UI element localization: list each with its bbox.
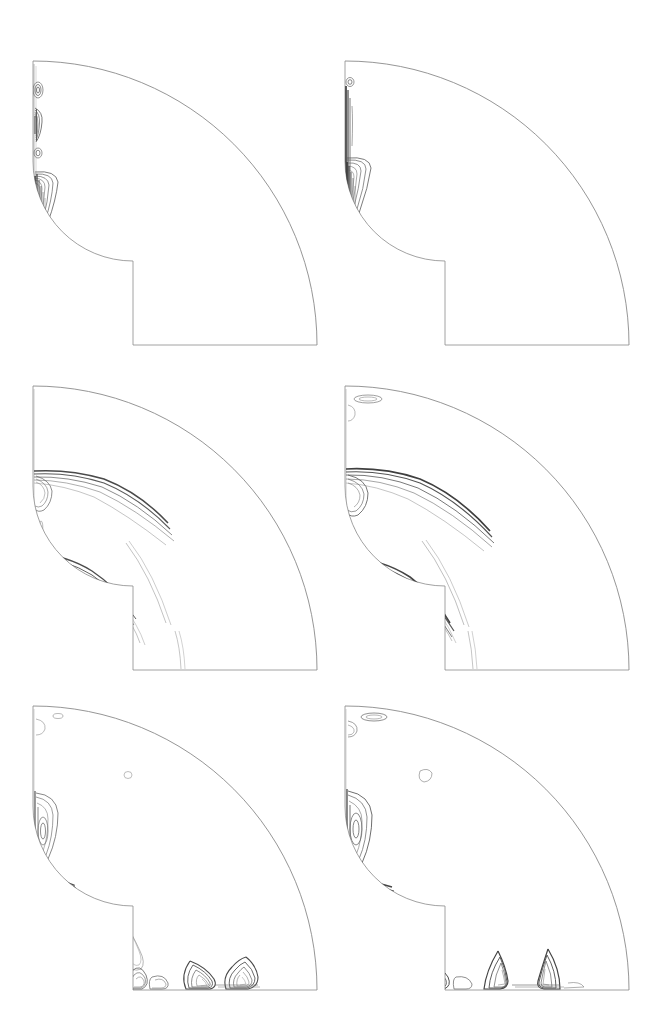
bottom-crescent-left <box>423 967 472 989</box>
isolated-blob <box>419 769 432 782</box>
panel-bottom-right-plot <box>312 695 644 1027</box>
plume-upper <box>346 469 494 551</box>
teardrop-plume <box>116 911 143 970</box>
bottom-crescent-center <box>484 951 508 989</box>
bottom-blob-left <box>128 968 169 989</box>
panel-bottom-left <box>0 695 332 1027</box>
domain-outline <box>33 706 317 990</box>
closed-loop-top <box>346 78 354 87</box>
closed-loop-top <box>348 713 387 737</box>
vertical-plume <box>347 789 372 871</box>
bottom-blob-center <box>184 961 216 989</box>
domain-outline <box>33 386 317 670</box>
contour-field <box>33 64 58 260</box>
closed-loop-top <box>354 395 382 403</box>
isolated-blob <box>124 772 132 779</box>
panel-bottom-right <box>312 695 644 1027</box>
panel-middle-right <box>312 375 644 707</box>
domain-outline <box>345 61 629 345</box>
panel-middle-left-plot <box>0 375 332 707</box>
bottom-blob-right <box>215 957 260 989</box>
closed-loop-top <box>33 82 43 98</box>
panel-bottom-left-plot <box>0 695 332 1027</box>
plume-root <box>347 158 371 250</box>
panel-top-right <box>312 50 644 382</box>
closed-loop-mid <box>34 148 42 158</box>
closed-loop-top <box>36 714 63 736</box>
contour-figure <box>0 0 664 1027</box>
panel-top-left-plot <box>0 50 332 382</box>
domain-outline <box>345 706 629 990</box>
panel-middle-left <box>0 375 332 707</box>
interior-filaments <box>118 541 185 669</box>
contour-field <box>34 709 260 989</box>
closed-loop-bottom <box>346 246 355 255</box>
contour-field <box>346 78 372 257</box>
closed-loop-bottom <box>33 249 43 259</box>
panel-top-right-plot <box>312 50 644 382</box>
contour-field <box>346 389 494 669</box>
plume-upper <box>34 471 174 545</box>
plume-root <box>35 172 58 248</box>
plume-lower <box>34 553 136 627</box>
vertical-band-upper <box>35 108 42 142</box>
small-hook <box>348 405 355 421</box>
contour-field <box>34 389 185 669</box>
closed-loop-mid <box>349 526 355 544</box>
curved-plume <box>388 893 443 964</box>
plume-lower <box>346 557 454 639</box>
contour-field <box>346 709 584 989</box>
panel-top-left <box>0 50 332 382</box>
domain-outline <box>33 61 317 345</box>
interior-filaments <box>422 540 477 669</box>
panel-middle-right-plot <box>312 375 644 707</box>
bottom-crescent-right <box>512 949 584 989</box>
